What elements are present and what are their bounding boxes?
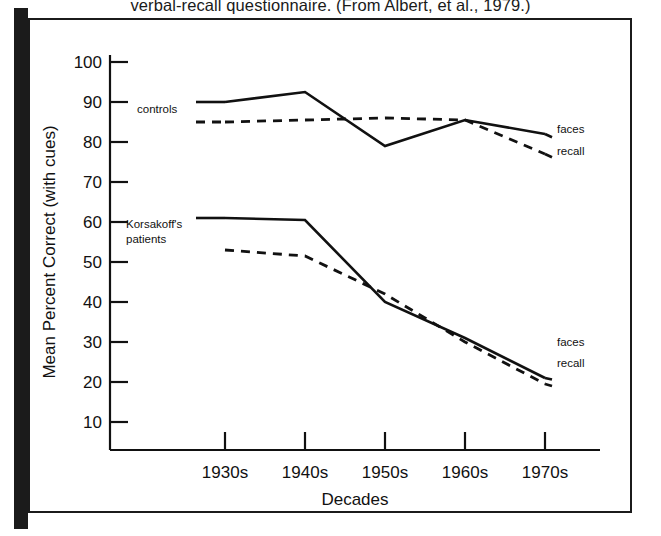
y-tick-label-30: 30: [83, 333, 102, 352]
annotation-trailer-2: [545, 378, 552, 380]
x-axis-title: Decades: [321, 490, 388, 509]
series-line-3: [225, 250, 545, 384]
y-tick-label-80: 80: [83, 133, 102, 152]
chart-series-group: [196, 92, 552, 386]
series-line-1: [225, 118, 545, 154]
y-tick-label-20: 20: [83, 373, 102, 392]
x-tick-label-1960s: 1960s: [442, 463, 488, 482]
y-tick-label-50: 50: [83, 253, 102, 272]
y-tick-label-70: 70: [83, 173, 102, 192]
annotation-korsakoff-line1: Korsakoff's: [126, 218, 183, 230]
x-axis-ticks: [225, 432, 545, 450]
annotation-korsakoff-faces: faces: [557, 336, 585, 348]
x-tick-label-1950s: 1950s: [362, 463, 408, 482]
series-line-2: [225, 218, 545, 378]
annotation-trailer-0: [545, 134, 552, 137]
y-tick-label-40: 40: [83, 293, 102, 312]
annotation-controls-faces: faces: [557, 123, 585, 135]
y-tick-label-60: 60: [83, 213, 102, 232]
annotation-trailer-3: [545, 384, 552, 386]
x-tick-label-1940s: 1940s: [282, 463, 328, 482]
y-tick-label-90: 90: [83, 93, 102, 112]
y-axis-title: Mean Percent Correct (with cues): [40, 125, 59, 378]
annotation-trailer-1: [545, 154, 552, 157]
y-axis-tick-labels: 102030405060708090100: [74, 53, 102, 432]
y-tick-label-100: 100: [74, 53, 102, 72]
annotation-korsakoff-line2: patients: [126, 233, 167, 245]
annotation-controls-group: controls: [137, 103, 178, 115]
y-tick-label-10: 10: [83, 413, 102, 432]
annotation-controls-recall: recall: [557, 145, 584, 157]
x-tick-label-1930s: 1930s: [202, 463, 248, 482]
annotation-korsakoff-recall: recall: [557, 357, 584, 369]
x-tick-label-1970s: 1970s: [522, 463, 568, 482]
x-axis-tick-labels: 1930s1940s1950s1960s1970s: [202, 463, 568, 482]
chart-plot-area: 102030405060708090100 1930s1940s1950s196…: [0, 0, 661, 536]
line-chart-svg: 102030405060708090100 1930s1940s1950s196…: [0, 0, 661, 536]
